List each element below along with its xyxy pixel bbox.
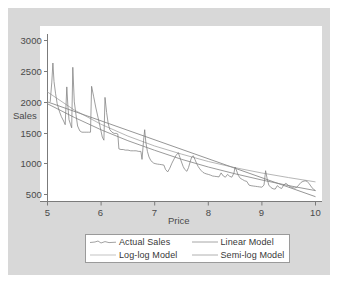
legend-label-semi-log-model: Semi-log Model: [221, 250, 285, 260]
y-axis-ticks: [44, 41, 48, 195]
series-line-log-log-model: [48, 92, 316, 182]
ytick-label-3000: 3000: [8, 35, 42, 46]
legend-line-sample-log-log-model: [90, 251, 116, 259]
legend-label-log-log-model: Log-log Model: [119, 250, 177, 260]
xtick-label-5: 5: [37, 207, 58, 218]
xtick-label-7: 7: [144, 207, 165, 218]
legend-line-sample-actual-sales: [90, 238, 116, 246]
xtick-label-9: 9: [251, 207, 272, 218]
x-axis-title: Price: [168, 215, 190, 226]
xtick-label-6: 6: [90, 207, 111, 218]
xtick-label-10: 10: [305, 207, 326, 218]
legend-label-actual-sales: Actual Sales: [119, 237, 170, 247]
ytick-label-1500: 1500: [8, 128, 42, 139]
legend-grid: Actual Sales Linear Model Log-log Model: [86, 235, 289, 262]
chart-legend: Actual Sales Linear Model Log-log Model: [85, 234, 290, 263]
series-line-linear-model: [48, 102, 316, 197]
series-line-actual-sales: [50, 63, 315, 191]
legend-line-sample-semi-log-model: [192, 251, 218, 259]
legend-entry-log-log-model[interactable]: Log-log Model: [86, 249, 188, 263]
y-axis-title: Sales: [13, 110, 37, 121]
chart-figure: 3000 2500 2000 1500 1000 500 Sales 5 6 7…: [0, 0, 346, 288]
legend-entry-actual-sales[interactable]: Actual Sales: [86, 235, 188, 249]
legend-label-linear-model: Linear Model: [221, 237, 274, 247]
ytick-label-500: 500: [8, 189, 42, 200]
x-axis-ticks: [48, 202, 316, 206]
ytick-label-2500: 2500: [8, 66, 42, 77]
ytick-label-2000: 2000: [8, 97, 42, 108]
legend-entry-linear-model[interactable]: Linear Model: [188, 235, 290, 249]
legend-entry-semi-log-model[interactable]: Semi-log Model: [188, 249, 290, 263]
legend-line-sample-linear-model: [192, 238, 218, 246]
ytick-label-1000: 1000: [8, 158, 42, 169]
xtick-label-8: 8: [198, 207, 219, 218]
